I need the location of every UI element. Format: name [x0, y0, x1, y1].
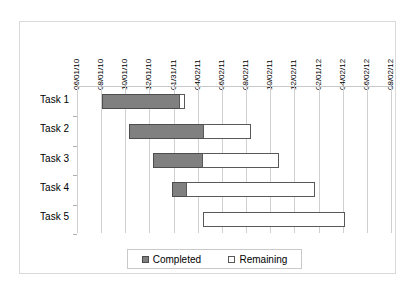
- legend-entry-completed: Completed: [142, 254, 201, 265]
- task-row: [77, 205, 391, 234]
- task-row: [77, 175, 391, 204]
- legend-entry-remaining: Remaining: [228, 254, 287, 265]
- legend-label-completed: Completed: [153, 254, 201, 265]
- task-row: [77, 116, 391, 145]
- task-bar[interactable]: [129, 124, 251, 139]
- y-axis-tick-label: Task 5: [40, 211, 69, 222]
- y-axis-tick: [73, 234, 77, 235]
- bar-segment-remaining[interactable]: [186, 182, 315, 197]
- task-bar[interactable]: [102, 94, 184, 109]
- bar-segment-completed[interactable]: [102, 94, 179, 109]
- task-bar[interactable]: [172, 182, 315, 197]
- remaining-swatch-icon: [228, 256, 235, 263]
- task-row: [77, 87, 391, 116]
- completed-swatch-icon: [142, 256, 149, 263]
- task-row: [77, 146, 391, 175]
- y-axis-label-group: Task 1Task 2Task 3Task 4Task 5: [20, 86, 77, 233]
- y-axis-tick-label: Task 2: [40, 123, 69, 134]
- y-axis-tick-label: Task 4: [40, 182, 69, 193]
- bar-segment-remaining[interactable]: [203, 212, 346, 227]
- y-axis-tick-label: Task 1: [40, 94, 69, 105]
- bar-segment-remaining[interactable]: [179, 94, 185, 109]
- gantt-chart-frame: 06/01/1008/01/1010/01/1012/01/1001/31/11…: [19, 21, 396, 274]
- legend-label-remaining: Remaining: [239, 254, 287, 265]
- bar-segment-remaining[interactable]: [203, 124, 251, 139]
- bar-segment-completed[interactable]: [172, 182, 186, 197]
- bar-segment-remaining[interactable]: [202, 153, 279, 168]
- bar-segment-completed[interactable]: [129, 124, 204, 139]
- plot-area: [77, 86, 391, 233]
- task-bar[interactable]: [153, 153, 279, 168]
- y-axis-tick-label: Task 3: [40, 153, 69, 164]
- bar-segment-completed[interactable]: [153, 153, 203, 168]
- x-axis-tick: [391, 83, 392, 87]
- gridline: [391, 87, 392, 233]
- task-bar[interactable]: [203, 212, 346, 227]
- chart-legend: Completed Remaining: [127, 249, 302, 269]
